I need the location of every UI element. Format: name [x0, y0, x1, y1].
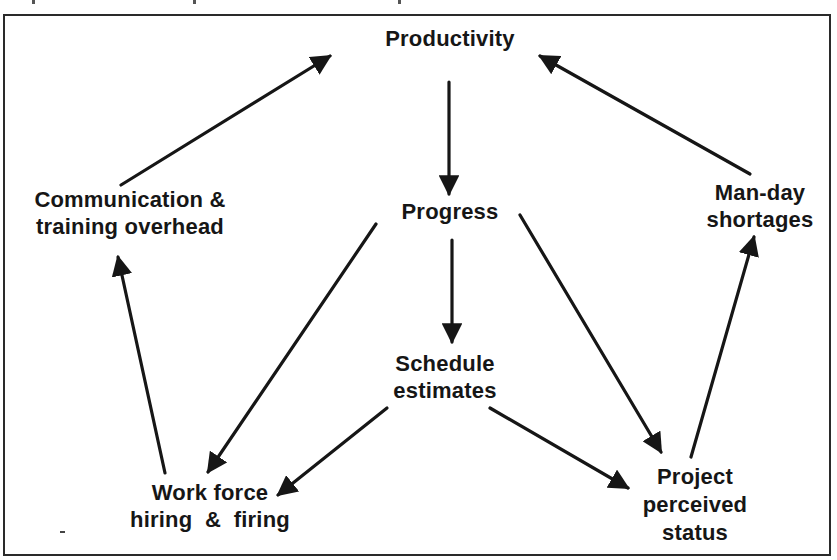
node-label: Schedule [365, 350, 525, 377]
edge-progress-to-work-force [208, 224, 376, 472]
node-schedule-estimates: Schedule estimates [365, 350, 525, 404]
node-progress: Progress [375, 198, 525, 225]
node-label: Progress [375, 198, 525, 225]
scan-artifact [398, 0, 401, 4]
edge-man-day-to-productivity [540, 56, 750, 174]
scan-artifact [60, 531, 65, 533]
scan-artifact [32, 0, 35, 4]
node-label: Communication & [10, 186, 250, 213]
node-man-day-shortages: Man-day shortages [690, 179, 830, 233]
edge-project-status-to-man-day [691, 237, 754, 457]
node-label: estimates [365, 377, 525, 404]
scan-artifact [193, 0, 196, 4]
node-label: Productivity [355, 25, 545, 52]
node-label: Man-day [690, 179, 830, 206]
edge-schedule-to-project-status [490, 408, 628, 488]
node-communication-overhead: Communication & training overhead [10, 186, 250, 240]
node-work-force: Work force hiring & firing [125, 479, 295, 533]
edge-work-force-to-communication [118, 257, 165, 473]
edge-progress-to-project-status [520, 215, 661, 452]
node-label: perceived [625, 491, 765, 519]
node-label: training overhead [10, 213, 250, 240]
node-label: Project [625, 463, 765, 491]
node-label: status [625, 519, 765, 547]
node-label: hiring & firing [125, 506, 295, 533]
node-label: Work force [125, 479, 295, 506]
node-project-status: Project perceived status [625, 463, 765, 547]
node-productivity: Productivity [355, 25, 545, 52]
edge-communication-to-productivity [121, 56, 330, 185]
node-label: shortages [690, 206, 830, 233]
